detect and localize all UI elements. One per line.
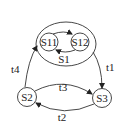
- transition-t1: [93, 52, 102, 88]
- transition-s11-s12: [53, 32, 72, 34]
- state-label-s2: S2: [21, 91, 33, 103]
- state-diagram: S11 S12 S1 S2 S3 t1 t4 t3 t2: [0, 0, 123, 129]
- transition-label-t1: t1: [106, 61, 115, 73]
- state-label-s3: S3: [96, 92, 108, 104]
- transition-label-t3: t3: [59, 81, 68, 93]
- transition-label-t2: t2: [58, 111, 67, 123]
- transition-s12-s11: [56, 50, 75, 52]
- transition-t2: [36, 103, 94, 111]
- composite-label-s1: S1: [58, 53, 70, 65]
- state-label-s11: S11: [41, 36, 58, 48]
- transition-t4: [25, 46, 37, 87]
- state-label-s12: S12: [71, 36, 88, 48]
- transition-label-t4: t4: [11, 63, 20, 75]
